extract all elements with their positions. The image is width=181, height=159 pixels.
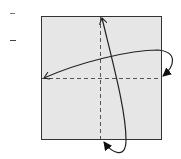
origami-diagram (0, 0, 181, 159)
